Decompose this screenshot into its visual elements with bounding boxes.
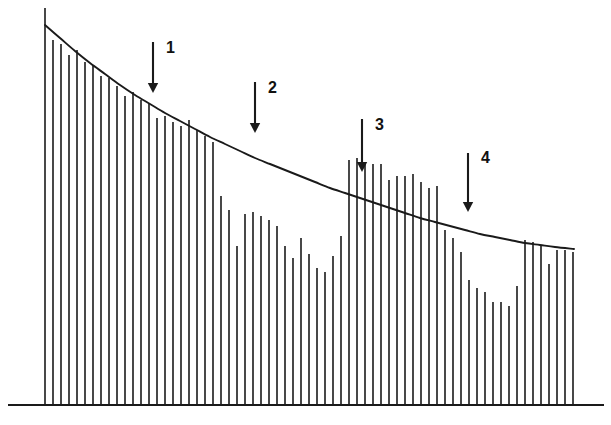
plot-canvas [0,0,611,425]
arrow-label-4: 4 [481,150,490,166]
arrow-head-1 [148,83,158,93]
arrow-label-1: 1 [166,40,175,56]
arrow-head-2 [250,123,260,133]
arrow-label-3: 3 [375,117,384,133]
arrow-head-4 [463,202,473,212]
spectrum-figure: 1234 [0,0,611,425]
bar-series [45,8,573,405]
arrow-label-2: 2 [268,80,277,96]
